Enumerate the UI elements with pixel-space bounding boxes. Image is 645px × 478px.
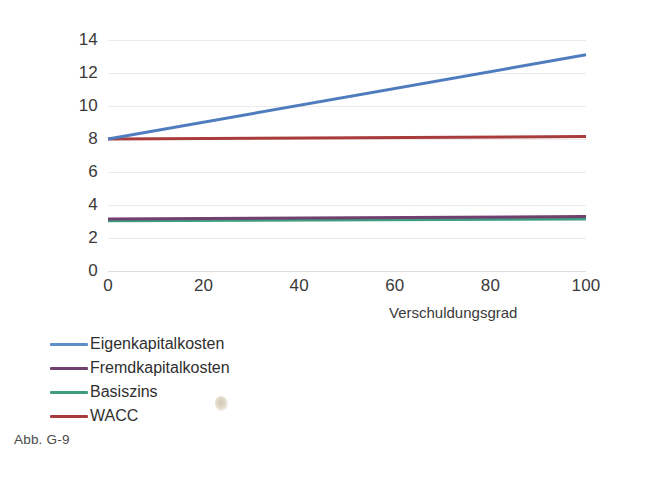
legend-item-label: Eigenkapitalkosten [90, 335, 224, 353]
legend-item-label: WACC [90, 407, 138, 425]
chart-legend: EigenkapitalkostenFremdkapitalkostenBasi… [50, 332, 380, 428]
x-axis-title: Verschuldungsgrad [389, 304, 619, 321]
x-tick-label: 80 [455, 276, 525, 295]
legend-swatch-icon [50, 367, 88, 370]
legend-swatch-icon [50, 415, 88, 418]
x-tick-label: 0 [73, 276, 143, 295]
scan-artifact-smudge [215, 396, 228, 411]
x-tick-label: 100 [551, 276, 621, 295]
legend-swatch-icon [50, 343, 88, 346]
x-tick-label: 20 [169, 276, 239, 295]
legend-swatch-icon [50, 391, 88, 394]
legend-item-fremdkapitalkosten[interactable]: Fremdkapitalkosten [50, 356, 380, 380]
legend-item-label: Fremdkapitalkosten [90, 359, 230, 377]
legend-item-label: Basiszins [90, 383, 158, 401]
x-tick-label: 60 [360, 276, 430, 295]
figure-caption: Abb. G-9 [14, 432, 70, 448]
x-tick-label: 40 [264, 276, 334, 295]
figure-container: 02468101214 020406080100 Verschuldungsgr… [0, 0, 645, 478]
legend-item-eigenkapitalkosten[interactable]: Eigenkapitalkosten [50, 332, 380, 356]
